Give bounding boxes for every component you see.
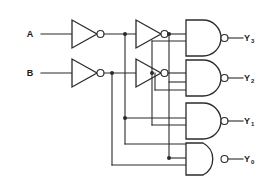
input-label-b: B [27,68,34,78]
logic-circuit-diagram: A B [0,0,271,178]
output-label-y0: Y [244,154,250,164]
input-label-a: A [27,29,34,39]
not-gate-b-second [136,59,161,87]
output-sub-y0: 0 [251,159,255,165]
not-gate-b-first-bubble [97,70,104,77]
nand-gate-y1 [186,103,243,139]
output-label-y3: Y [244,33,250,43]
nand-gate-y0 [186,143,243,175]
not-gate-b-first [72,59,97,87]
not-gate-a-first [72,20,97,48]
output-sub-y2: 2 [251,78,255,84]
output-label-y1: Y [244,116,250,126]
nand-gate-y3 [186,20,243,56]
nand-gate-y2-bubble [221,75,228,82]
output-label-y2: Y [244,73,250,83]
nand-gate-y2 [186,60,243,96]
circuit-canvas: A B [0,0,271,178]
not-gate-a-first-bubble [97,31,104,38]
not-gate-a-second [136,20,161,48]
nand-gate-y3-bubble [221,35,228,42]
output-sub-y3: 3 [251,38,255,44]
not-gate-b-second-bubble [161,70,168,77]
nand-gate-y0-bubble [221,156,228,163]
not-gate-a-second-bubble [161,31,168,38]
output-sub-y1: 1 [251,121,255,127]
nand-gate-y1-bubble [221,118,228,125]
